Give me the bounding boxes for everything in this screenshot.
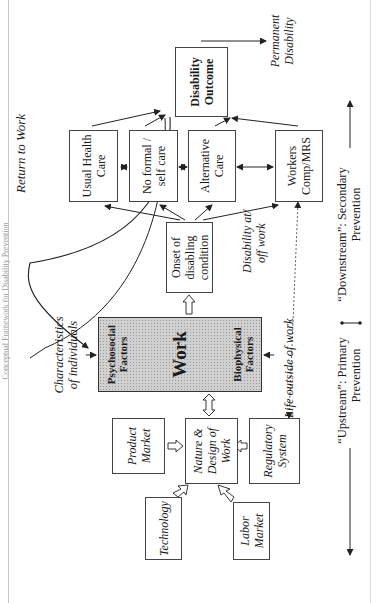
product-market-box: Product Market: [112, 418, 165, 474]
nature-design-line3: Work: [219, 428, 233, 474]
upstream-line2: Prevention: [349, 328, 363, 453]
life-outside-work-label: Life outside of work: [282, 318, 296, 418]
product-market-line1: Product: [125, 427, 139, 465]
permanent-line2: Disability: [282, 1, 296, 81]
permanent-disability-label: Permanent Disability: [268, 1, 296, 81]
nature-design-line2: Design of: [205, 428, 219, 474]
nature-design-work-box: Nature & Design of Work: [185, 418, 238, 484]
regulatory-system-box: Regulatory System: [249, 418, 300, 484]
biophysical-line2: Factors: [243, 327, 255, 381]
psychosocial-line2: Factors: [117, 325, 129, 384]
return-to-work-label: Return to Work: [14, 114, 28, 193]
labor-market-line1: Labor: [238, 514, 252, 549]
regulatory-line1: Regulatory: [261, 424, 275, 477]
product-market-line2: Market: [139, 427, 153, 465]
onset-line3: condition: [197, 235, 211, 280]
psychosocial-factors: Psychosocial Factors: [105, 325, 129, 384]
technology-label: Technology: [157, 501, 171, 556]
disability-at-line1: Disability at/: [240, 197, 254, 273]
nature-design-line1: Nature &: [191, 428, 205, 474]
labor-market-box: Labor Market: [233, 502, 270, 560]
characteristics-line2: of individuals: [66, 307, 80, 403]
workers-comp-line1: Workers: [285, 137, 299, 195]
alternative-care-line2: Care: [212, 139, 226, 193]
usual-health-care-line1: Usual Health: [80, 135, 94, 198]
technology-box: Technology: [145, 497, 182, 560]
upstream-line1: “Upstream”: Primary: [335, 328, 349, 453]
upstream-label: “Upstream”: Primary Prevention: [335, 328, 363, 453]
characteristics-line1: Characteristics: [52, 307, 66, 403]
disability-outcome-line1: Disability: [188, 57, 202, 106]
characteristics-label: Characteristics of individuals: [52, 307, 80, 403]
disability-at-off-work-label: Disability at/ off work: [240, 197, 268, 273]
permanent-line1: Permanent: [268, 1, 282, 81]
workers-comp-line2: Comp/MRS: [299, 137, 313, 195]
downstream-line1: “Downstream”: Secondary: [335, 152, 349, 317]
disability-at-line2: off work: [254, 197, 268, 273]
no-formal-self-care-box: No formal / self care: [129, 130, 178, 202]
disability-outcome-line2: Outcome: [202, 57, 216, 106]
usual-health-care-box: Usual Health Care: [69, 130, 118, 202]
no-formal-line1: No formal /: [140, 138, 154, 194]
alternative-care-box: Alternative Care: [188, 130, 236, 202]
work-box: Psychosocial Factors Work Biophysical Fa…: [98, 317, 262, 392]
regulatory-line2: System: [275, 424, 289, 477]
onset-box: Onset of disabling condition: [166, 222, 213, 293]
work-title: Work: [173, 331, 187, 377]
usual-health-care-line2: Care: [94, 135, 108, 198]
disability-outcome-box: Disability Outcome: [175, 47, 228, 117]
alternative-care-line1: Alternative: [198, 139, 212, 193]
downstream-line2: Prevention: [349, 152, 363, 317]
biophysical-line1: Biophysical: [231, 327, 243, 381]
onset-line2: disabling: [183, 235, 197, 280]
onset-line1: Onset of: [169, 235, 183, 280]
no-formal-line2: self care: [154, 138, 168, 194]
labor-market-line2: Market: [252, 514, 266, 549]
downstream-label: “Downstream”: Secondary Prevention: [335, 152, 363, 317]
psychosocial-line1: Psychosocial: [105, 325, 117, 384]
biophysical-factors: Biophysical Factors: [231, 327, 255, 381]
diagram-canvas: Return to Work Disability Outcome Perman…: [0, 0, 379, 603]
workers-comp-box: Workers Comp/MRS: [275, 130, 323, 202]
